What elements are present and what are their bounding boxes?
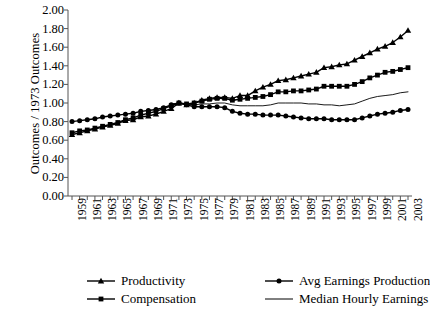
legend-key-square-icon [86, 293, 116, 305]
chart-legend: ProductivityAvg Earnings ProductionCompe… [86, 272, 416, 310]
x-tick-label: 1993 [336, 198, 348, 221]
x-tick-label: 1963 [107, 198, 119, 221]
x-axis-tick-labels: 1959196119631965196719691971197319751977… [68, 198, 412, 260]
legend-item: Compensation [86, 290, 196, 307]
legend-label: Compensation [121, 292, 196, 305]
legend-item: Productivity [86, 272, 185, 289]
legend-key-triangle-icon [86, 275, 116, 287]
legend-item: Avg Earnings Production [264, 272, 430, 289]
y-tick-label: 1.00 [42, 97, 64, 110]
y-axis-tick-labels: 0.000.200.400.600.801.001.201.401.601.80… [0, 0, 64, 206]
y-tick-label: 1.20 [42, 78, 64, 91]
x-tick-label: 1989 [306, 198, 318, 221]
series-avg-earnings-production [70, 101, 411, 125]
x-tick-label: 1991 [321, 198, 333, 221]
y-tick-label: 0.60 [42, 134, 64, 147]
legend-item: Median Hourly Earnings [264, 290, 428, 307]
x-tick-label: 1999 [382, 198, 394, 221]
x-tick-label: 1995 [351, 198, 363, 221]
x-tick-label: 1975 [199, 198, 211, 221]
series-compensation [70, 65, 411, 135]
x-tick-label: 1971 [168, 198, 180, 221]
x-tick-label: 1973 [183, 198, 195, 221]
y-tick-label: 1.40 [42, 60, 64, 73]
plot-svg [68, 10, 412, 196]
x-tick-label: 2001 [397, 198, 409, 221]
x-tick-label: 1997 [367, 198, 379, 221]
x-tick-label: 1981 [245, 198, 257, 221]
x-tick-label: 1979 [229, 198, 241, 221]
x-tick-label: 1985 [275, 198, 287, 221]
x-tick-label: 1961 [92, 198, 104, 221]
y-tick-label: 0.80 [42, 115, 64, 128]
y-tick-label: 0.20 [42, 171, 64, 184]
x-tick-label: 1983 [260, 198, 272, 221]
legend-label: Avg Earnings Production [299, 274, 430, 287]
legend-label: Median Hourly Earnings [299, 292, 428, 305]
y-tick-label: 0.40 [42, 153, 64, 166]
plot-area [68, 10, 412, 196]
x-tick-label: 1967 [138, 198, 150, 221]
y-tick-label: 0.00 [42, 190, 64, 203]
y-tick-label: 2.00 [42, 4, 64, 17]
legend-label: Productivity [121, 274, 185, 287]
x-tick-label: 1959 [77, 198, 89, 221]
x-tick-label: 2003 [413, 198, 425, 221]
x-tick-label: 1987 [290, 198, 302, 221]
x-tick-label: 1965 [122, 198, 134, 221]
legend-key-none-icon [264, 293, 294, 305]
x-tick-label: 1977 [214, 198, 226, 221]
y-tick-label: 1.60 [42, 41, 64, 54]
legend-key-circle-icon [264, 275, 294, 287]
y-tick-label: 1.80 [42, 22, 64, 35]
x-tick-label: 1969 [153, 198, 165, 221]
